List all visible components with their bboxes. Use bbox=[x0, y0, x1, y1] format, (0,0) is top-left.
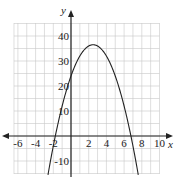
y-tick-label: 40 bbox=[58, 30, 70, 42]
x-tick-label: -6 bbox=[13, 137, 23, 149]
x-tick-label: 10 bbox=[154, 137, 166, 149]
y-tick-label: 30 bbox=[58, 55, 70, 67]
x-tick-label: 4 bbox=[104, 137, 110, 149]
x-axis-left-arrow-icon bbox=[2, 133, 9, 139]
y-axis-up-arrow-icon bbox=[68, 10, 74, 17]
axes bbox=[2, 10, 173, 177]
x-tick-label: -4 bbox=[31, 137, 41, 149]
y-axis-label: y bbox=[60, 4, 66, 16]
y-tick-label: -10 bbox=[54, 155, 69, 167]
x-tick-label: 2 bbox=[86, 137, 92, 149]
parabola-chart: -6-4-2246810-1010203040 x y bbox=[0, 0, 175, 177]
x-tick-label: 8 bbox=[139, 137, 145, 149]
x-tick-label: 6 bbox=[121, 137, 127, 149]
grid-lines bbox=[14, 23, 160, 174]
x-axis-label: x bbox=[167, 138, 173, 150]
